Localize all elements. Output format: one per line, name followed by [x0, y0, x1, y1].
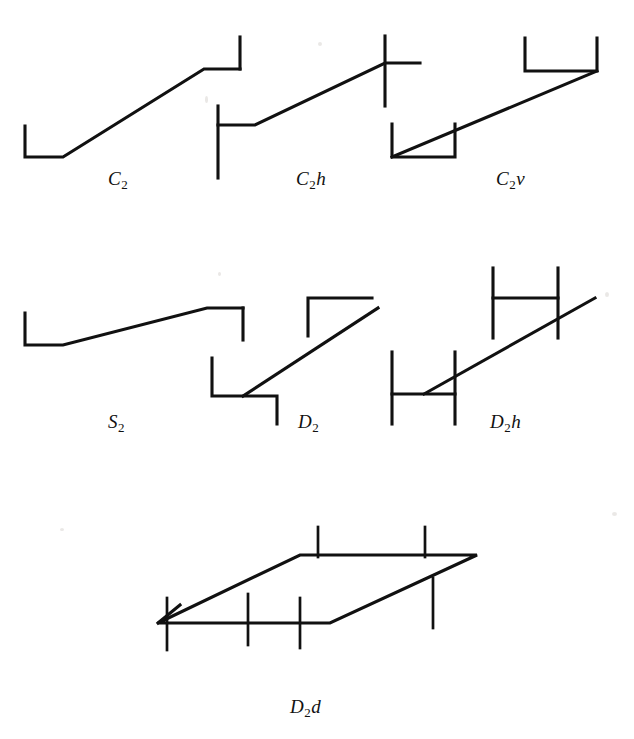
- label-c2h-subscript: 2: [309, 177, 316, 192]
- label-c2: C2: [108, 168, 128, 193]
- symmetry-figure: C2 C2h C2v S2 D2 D2h D2d: [0, 0, 634, 739]
- scan-speck: [605, 292, 609, 297]
- diagram-d2: [212, 298, 378, 424]
- label-s2-subscript: 2: [118, 420, 125, 435]
- c2v-upper-bracket: [525, 38, 597, 71]
- label-d2h-suffix: h: [511, 411, 521, 432]
- scan-speck: [318, 42, 322, 46]
- label-d2d-suffix: d: [311, 696, 321, 717]
- diagram-canvas: [0, 0, 634, 739]
- label-d2-base: D: [298, 411, 312, 432]
- scan-speck: [612, 512, 617, 516]
- label-s2-base: S: [108, 411, 118, 432]
- d2d-parallelogram: [158, 555, 477, 623]
- diagram-c2h: [218, 36, 420, 178]
- label-d2h: D2h: [490, 411, 521, 436]
- scan-speck: [218, 272, 221, 276]
- c2v-diagonal: [392, 71, 597, 157]
- label-c2-subscript: 2: [121, 177, 128, 192]
- label-d2d-base: D: [290, 696, 304, 717]
- label-c2v-subscript: 2: [509, 177, 516, 192]
- label-c2h-base: C: [296, 168, 309, 189]
- scan-speck: [60, 528, 64, 531]
- label-c2v-suffix: v: [516, 168, 525, 189]
- d2-diagonal: [243, 308, 378, 396]
- label-s2: S2: [108, 411, 125, 436]
- scan-speck: [205, 96, 208, 103]
- label-c2h: C2h: [296, 168, 326, 193]
- label-d2d: D2d: [290, 696, 321, 721]
- label-d2h-subscript: 2: [504, 420, 511, 435]
- diagram-c2v: [392, 38, 597, 157]
- label-c2v: C2v: [496, 168, 525, 193]
- diagram-d2h: [392, 268, 595, 424]
- label-d2: D2: [298, 411, 319, 436]
- label-c2-suffix: [128, 168, 129, 189]
- label-s2-suffix: [125, 411, 126, 432]
- label-d2d-subscript: 2: [304, 705, 311, 720]
- c2-main-path: [25, 69, 240, 157]
- label-c2-base: C: [108, 168, 121, 189]
- c2h-main-path: [218, 63, 420, 125]
- label-d2h-base: D: [490, 411, 504, 432]
- diagram-d2d: [158, 527, 477, 650]
- d2-lower-bracket: [212, 358, 277, 424]
- label-d2-suffix: [319, 411, 320, 432]
- s2-main-path: [25, 308, 243, 345]
- label-d2-subscript: 2: [312, 420, 319, 435]
- label-c2v-base: C: [496, 168, 509, 189]
- label-c2h-suffix: h: [316, 168, 326, 189]
- diagram-s2: [25, 308, 243, 345]
- d2h-diagonal: [424, 298, 595, 394]
